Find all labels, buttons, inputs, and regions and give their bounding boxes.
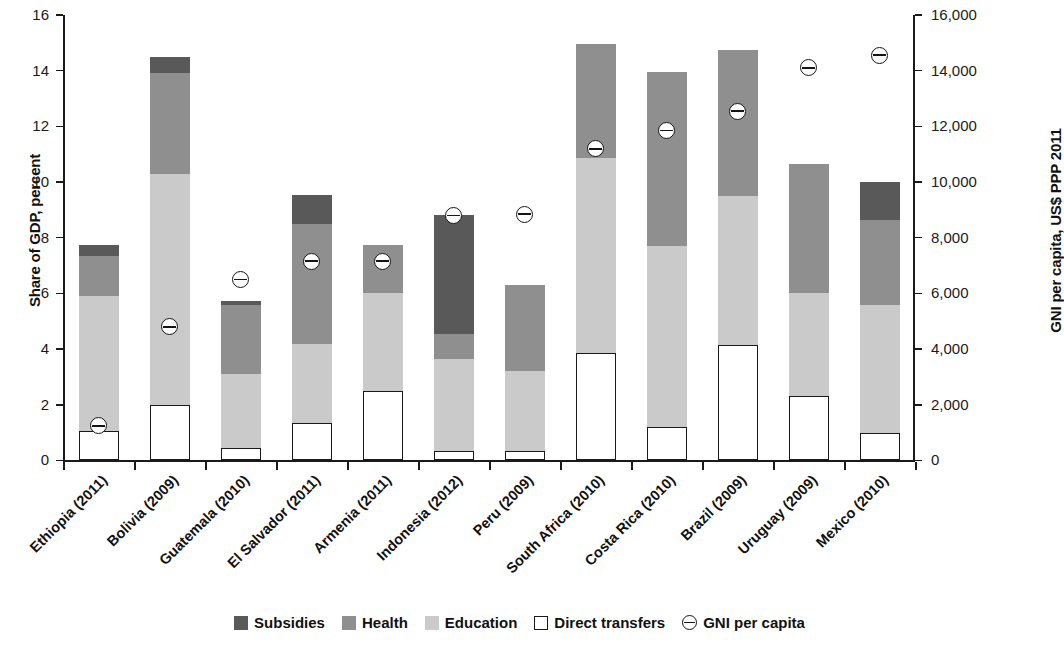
legend-item-subsidies[interactable]: Subsidies [234, 614, 325, 631]
legend-item-health[interactable]: Health [342, 614, 408, 631]
y-axis-left-tick-label: 4 [0, 341, 49, 356]
legend-swatch-icon [342, 616, 356, 630]
y-axis-right-line [913, 15, 915, 462]
bar-segment-transfers[interactable] [718, 345, 758, 461]
y-axis-left-tick-label: 16 [0, 7, 49, 22]
x-axis-label-armenia-2011: Armenia (2011) [269, 472, 393, 596]
gni-per-capita-marker[interactable] [90, 417, 107, 434]
bar-segment-education[interactable] [221, 374, 261, 448]
bar-segment-health[interactable] [434, 334, 474, 359]
y-axis-right-tick [915, 14, 922, 16]
legend-item-transfers[interactable]: Direct transfers [534, 614, 665, 631]
bar-segment-transfers[interactable] [647, 427, 687, 460]
gni-per-capita-marker[interactable] [658, 122, 675, 139]
gni-per-capita-marker[interactable] [232, 271, 249, 288]
bar-segment-health[interactable] [860, 220, 900, 305]
bar-segment-subsidies[interactable] [79, 245, 119, 256]
bar-stack[interactable] [434, 215, 474, 460]
bar-segment-transfers[interactable] [150, 405, 190, 461]
bar-segment-health[interactable] [789, 164, 829, 293]
gni-per-capita-marker[interactable] [303, 253, 320, 270]
y-axis-left-tick-label: 8 [0, 230, 49, 245]
bar-segment-education[interactable] [860, 305, 900, 433]
x-axis-tick [773, 462, 775, 470]
bar-segment-health[interactable] [150, 73, 190, 173]
bar-segment-education[interactable] [79, 296, 119, 431]
x-axis-label-mexico-2010: Mexico (2010) [766, 472, 890, 596]
gni-per-capita-marker[interactable] [374, 253, 391, 270]
bar-segment-health[interactable] [647, 72, 687, 246]
x-axis-tick [347, 462, 349, 470]
bar-segment-education[interactable] [505, 371, 545, 450]
bar-segment-transfers[interactable] [505, 451, 545, 461]
bar-segment-transfers[interactable] [860, 433, 900, 461]
bar-segment-subsidies[interactable] [860, 182, 900, 220]
bar-stack[interactable] [221, 301, 261, 460]
bar-stack[interactable] [789, 164, 829, 460]
bar-segment-transfers[interactable] [292, 423, 332, 461]
bar-stack[interactable] [505, 285, 545, 460]
legend-item-gni[interactable]: GNI per capita [682, 614, 805, 631]
bar-segment-education[interactable] [718, 196, 758, 345]
bar-segment-subsidies[interactable] [434, 215, 474, 333]
bar-segment-health[interactable] [221, 305, 261, 375]
y-axis-left-tick [56, 14, 63, 16]
bar-stack[interactable] [576, 44, 616, 460]
legend-swatch-icon [234, 616, 248, 630]
bar-stack[interactable] [363, 245, 403, 461]
x-axis-tick [205, 462, 207, 470]
y-axis-right-tick-label: 12,000 [931, 118, 1051, 133]
bar-stack[interactable] [860, 182, 900, 460]
y-axis-right-tick [915, 181, 922, 183]
legend-item-education[interactable]: Education [425, 614, 518, 631]
bar-stack[interactable] [150, 57, 190, 461]
y-axis-left-tick [56, 404, 63, 406]
gni-per-capita-marker[interactable] [871, 47, 888, 64]
bar-segment-transfers[interactable] [434, 451, 474, 461]
bar-segment-subsidies[interactable] [292, 195, 332, 224]
x-axis-tick [418, 462, 420, 470]
bar-segment-education[interactable] [434, 359, 474, 451]
x-axis-label-costa-rica-2010: Costa Rica (2010) [553, 472, 677, 596]
bar-segment-education[interactable] [150, 174, 190, 405]
bar-segment-subsidies[interactable] [150, 57, 190, 74]
x-axis-tick [63, 462, 65, 470]
y-axis-left-tick-label: 12 [0, 118, 49, 133]
bar-segment-transfers[interactable] [79, 431, 119, 460]
x-axis-tick [702, 462, 704, 470]
y-axis-right-tick [915, 404, 922, 406]
y-axis-left-line [63, 15, 65, 462]
bar-segment-health[interactable] [505, 285, 545, 371]
gni-per-capita-marker[interactable] [445, 207, 462, 224]
bar-segment-education[interactable] [576, 158, 616, 353]
x-axis-tick [134, 462, 136, 470]
legend-label: Direct transfers [554, 614, 665, 631]
legend-label: Subsidies [254, 614, 325, 631]
bar-segment-transfers[interactable] [221, 448, 261, 461]
x-axis-label-el-salvador-2011: El Salvador (2011) [198, 472, 322, 596]
bar-segment-education[interactable] [363, 293, 403, 390]
bar-segment-education[interactable] [292, 344, 332, 423]
bar-segment-education[interactable] [647, 246, 687, 427]
gni-per-capita-marker[interactable] [516, 206, 533, 223]
x-axis-tick [560, 462, 562, 470]
x-axis-label-uruguay-2009: Uruguay (2009) [695, 472, 819, 596]
bar-segment-health[interactable] [292, 224, 332, 344]
gni-per-capita-marker[interactable] [729, 103, 746, 120]
bar-segment-subsidies[interactable] [221, 301, 261, 304]
gni-per-capita-marker[interactable] [587, 140, 604, 157]
bar-segment-transfers[interactable] [363, 391, 403, 461]
bar-segment-transfers[interactable] [789, 396, 829, 460]
y-axis-left-tick-label: 2 [0, 397, 49, 412]
x-axis-label-south-africa-2010: South Africa (2010) [482, 472, 606, 596]
bar-segment-education[interactable] [789, 293, 829, 396]
y-axis-right-tick-label: 2,000 [931, 397, 1051, 412]
x-axis-label-bolivia-2009: Bolivia (2009) [56, 472, 180, 596]
bar-segment-health[interactable] [79, 256, 119, 296]
bar-segment-health[interactable] [718, 50, 758, 196]
bar-stack[interactable] [292, 195, 332, 461]
y-axis-right-tick [915, 460, 922, 462]
gni-per-capita-marker[interactable] [800, 59, 817, 76]
bar-segment-transfers[interactable] [576, 353, 616, 460]
